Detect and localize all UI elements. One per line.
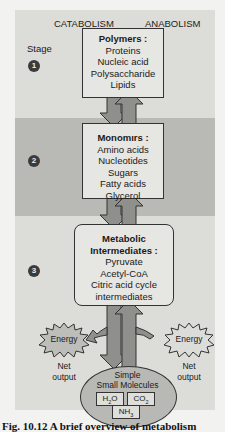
polymers-title: Polymers : [83,33,163,45]
intermediate-item: Pyruvate [75,256,173,268]
net-output-left: Net output [44,361,84,383]
output-label: output [44,372,84,383]
molecule-h2o: H2O [96,392,124,406]
intermediates-title-2: Intermediates : [75,245,173,257]
intermediate-item: Acetyl-CoA [75,268,173,280]
monomer-item: Sugars [83,167,163,179]
monomers-box: Monomırs : Amino acids Nucleotides Sugar… [82,123,164,199]
figure-caption: Fig. 10.12 A brief overview of metabolis… [2,420,196,432]
intermediate-item: intermediates [75,291,173,303]
monomer-item: Nucleotides [83,155,163,167]
monomers-title: Monomırs : [83,132,163,144]
molecule-co2: CO2 [127,392,155,406]
energy-right-label: Energy [169,334,209,344]
output-label: output [169,372,209,383]
intermediates-title-1: Metabolic [75,233,173,245]
net-output-right: Net output [169,361,209,383]
polymer-item: Polysaccharide [83,68,163,80]
intermediate-item: Citric acid cycle [75,279,173,291]
simple-label: Simple [80,370,175,380]
polymer-item: Proteins [83,45,163,57]
monomer-item: Glycerol [83,190,163,202]
energy-arrow-right [136,327,154,339]
polymers-box: Polymers : Proteins Nucleic acid Polysac… [82,28,164,98]
polymer-item: Lipids [83,79,163,91]
net-label: Net [169,361,209,372]
molecule-nh3: NH3 [112,405,140,419]
small-molecules-label: Small Molecules [80,380,175,390]
monomer-item: Amino acids [83,144,163,156]
monomer-item: Fatty acids [83,178,163,190]
intermediates-box: Metabolic Intermediates : Pyruvate Acety… [74,224,174,306]
energy-left-label: Energy [44,334,84,344]
net-label: Net [44,361,84,372]
polymer-item: Nucleic acid [83,56,163,68]
